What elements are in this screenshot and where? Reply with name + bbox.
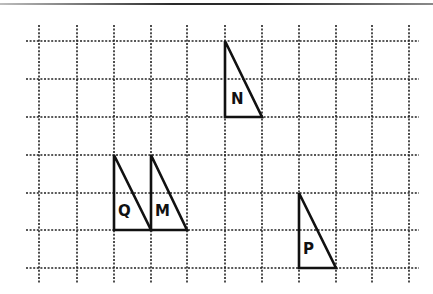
dotted-grid xyxy=(26,25,419,284)
grid-diagram: NQMP xyxy=(0,0,433,294)
triangle-label: M xyxy=(155,202,170,220)
triangle-label: P xyxy=(303,240,314,258)
triangle-label: N xyxy=(231,90,244,108)
triangle-label: Q xyxy=(118,202,131,220)
